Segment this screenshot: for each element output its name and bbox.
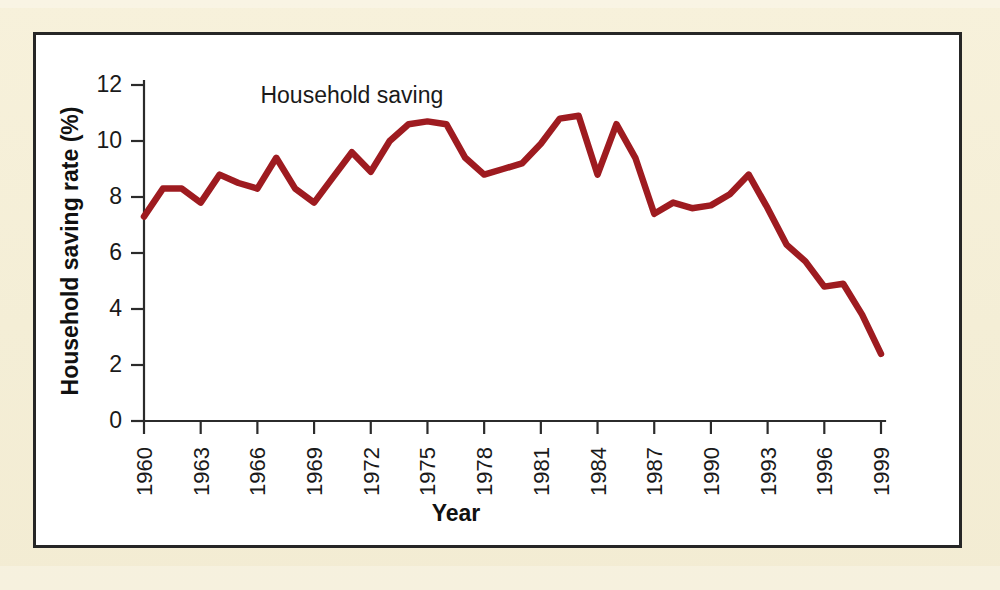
- y-tick-label: 6: [109, 239, 122, 265]
- x-axis-title: Year: [432, 500, 481, 526]
- y-tick-label: 12: [96, 71, 122, 97]
- y-tick-label: 4: [109, 295, 122, 321]
- x-tick-label: 1972: [359, 447, 384, 496]
- x-tick-label: 1975: [415, 447, 440, 496]
- figure-root: 024681012 196019631966196919721975197819…: [0, 0, 1000, 590]
- chart-figure-panel: 024681012 196019631966196919721975197819…: [33, 32, 962, 548]
- x-tick-label: 1993: [756, 447, 781, 496]
- y-tick-label: 8: [109, 183, 122, 209]
- y-axis-title: Household saving rate (%): [57, 107, 83, 396]
- data-line-household-saving: [144, 116, 881, 354]
- data-series-group: [144, 116, 881, 354]
- x-tick-label: 1990: [699, 447, 724, 496]
- paper-texture-top: [0, 0, 1000, 8]
- y-axis-ticks: 024681012: [96, 71, 144, 433]
- x-tick-label: 1978: [472, 447, 497, 496]
- paper-texture-bottom: [0, 566, 1000, 590]
- line-chart: 024681012 196019631966196919721975197819…: [36, 35, 965, 545]
- x-tick-label: 1981: [529, 447, 554, 496]
- x-tick-label: 1960: [132, 447, 157, 496]
- y-tick-label: 2: [109, 351, 122, 377]
- x-axis-ticks: 1960196319661969197219751978198119841987…: [132, 421, 894, 496]
- x-tick-label: 1969: [302, 447, 327, 496]
- x-tick-label: 1987: [642, 447, 667, 496]
- x-tick-label: 1996: [812, 447, 837, 496]
- axes-group: [144, 81, 885, 421]
- plot-area: 024681012 196019631966196919721975197819…: [36, 35, 959, 545]
- y-tick-label: 0: [109, 407, 122, 433]
- series-annotation-group: Household saving: [260, 82, 443, 108]
- y-tick-label: 10: [96, 127, 122, 153]
- x-tick-label: 1984: [586, 447, 611, 496]
- x-tick-label: 1963: [189, 447, 214, 496]
- series-annotation-label: Household saving: [260, 82, 443, 108]
- x-tick-label: 1966: [245, 447, 270, 496]
- x-tick-label: 1999: [869, 447, 894, 496]
